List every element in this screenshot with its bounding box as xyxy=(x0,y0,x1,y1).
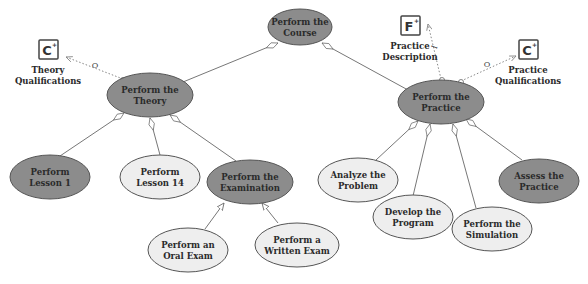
node-label-line1: Perform xyxy=(31,167,70,177)
link-examination-theory xyxy=(170,115,236,161)
resource-practice-description[interactable]: F + Practice Description xyxy=(382,16,437,62)
node-shape xyxy=(148,228,228,272)
node-shape xyxy=(499,159,579,203)
link-assess-practice xyxy=(466,119,522,160)
resource-practice-qualifications[interactable]: C + Practice Qualifications xyxy=(495,40,561,86)
icon-plus: + xyxy=(52,41,57,48)
node-shape xyxy=(318,158,398,202)
node-label-line1: Analyze the xyxy=(329,170,386,180)
node-simulation[interactable]: Perform the Simulation xyxy=(452,207,532,251)
node-label-line1: Perform the xyxy=(271,17,329,27)
node-label-line2: Lesson 14 xyxy=(136,178,184,188)
link-written-examination xyxy=(262,203,278,223)
node-label-line1: Perform an xyxy=(161,240,215,250)
resource-label-line1: Practice xyxy=(508,65,548,75)
link-lesson1-theory xyxy=(60,113,124,156)
specialization-links xyxy=(205,203,278,229)
node-lesson14[interactable]: Perform Lesson 14 xyxy=(120,155,200,199)
node-label-line1: Perform xyxy=(141,167,180,177)
link-lesson14-theory xyxy=(150,118,160,155)
node-label-line2: Problem xyxy=(338,181,378,191)
node-written-exam[interactable]: Perform a Written Exam xyxy=(255,223,339,267)
node-label-line2: Practice xyxy=(421,103,461,113)
node-shape xyxy=(452,207,532,251)
node-label-line1: Perform the xyxy=(221,172,279,182)
node-label-line2: Program xyxy=(392,218,433,228)
node-label-line1: Perform the xyxy=(121,85,179,95)
node-shape xyxy=(255,223,339,267)
node-shape xyxy=(207,160,293,204)
link-develop-practice xyxy=(413,124,430,196)
link-label-practice-description: I xyxy=(430,44,440,50)
link-analyze-practice xyxy=(376,121,418,160)
node-label-line1: Develop the xyxy=(385,207,442,217)
icon-letter: C xyxy=(42,43,52,58)
node-shape xyxy=(373,195,453,239)
resource-label-line1: Theory xyxy=(32,65,66,75)
resource-label-line1: Practice xyxy=(390,41,430,51)
node-assess[interactable]: Assess the Practice xyxy=(499,159,579,203)
link-theory-course xyxy=(183,43,278,82)
resource-label-line2: Qualifications xyxy=(15,76,81,86)
node-shape xyxy=(268,9,332,45)
node-label-line2: Written Exam xyxy=(263,246,329,256)
node-lesson1[interactable]: Perform Lesson 1 xyxy=(10,155,90,199)
node-shape xyxy=(10,155,90,199)
node-label-line2: Examination xyxy=(220,183,280,193)
node-label-line1: Perform a xyxy=(273,235,321,245)
icon-letter: F xyxy=(405,19,414,34)
node-analyze[interactable]: Analyze the Problem xyxy=(318,158,398,202)
icon-letter: C xyxy=(522,43,532,58)
link-label-theory-qualifications: O xyxy=(92,61,99,70)
task-decomposition-diagram: O I O C + Theory Qualifications F + Prac… xyxy=(0,0,588,284)
link-label-practice-qualifications: O xyxy=(484,60,491,69)
node-develop[interactable]: Develop the Program xyxy=(373,195,453,239)
link-oral-examination xyxy=(205,203,224,229)
resource-theory-qualifications[interactable]: C + Theory Qualifications xyxy=(15,40,81,86)
resource-label-line2: Description xyxy=(382,52,437,62)
node-oral-exam[interactable]: Perform an Oral Exam xyxy=(148,228,228,272)
node-label-line1: Perform the xyxy=(412,92,470,102)
node-label-line1: Assess the xyxy=(513,171,564,181)
icon-plus: + xyxy=(414,17,419,24)
node-shape xyxy=(120,155,200,199)
node-shape xyxy=(107,73,193,117)
node-theory[interactable]: Perform the Theory xyxy=(107,73,193,117)
node-shape xyxy=(398,80,484,124)
resource-label-line2: Qualifications xyxy=(495,76,561,86)
node-label-line2: Theory xyxy=(134,96,168,106)
node-label-line2: Oral Exam xyxy=(163,251,213,261)
icon-plus: + xyxy=(532,41,537,48)
node-course[interactable]: Perform the Course xyxy=(268,9,332,45)
node-practice[interactable]: Perform the Practice xyxy=(398,80,484,124)
link-simulation-practice xyxy=(453,124,476,208)
node-label-line2: Simulation xyxy=(466,230,518,240)
node-examination[interactable]: Perform the Examination xyxy=(207,160,293,204)
node-label-line2: Practice xyxy=(519,182,559,192)
node-label-line2: Lesson 1 xyxy=(29,178,71,188)
node-label-line1: Perform the xyxy=(463,219,521,229)
node-label-line2: Course xyxy=(283,28,317,38)
